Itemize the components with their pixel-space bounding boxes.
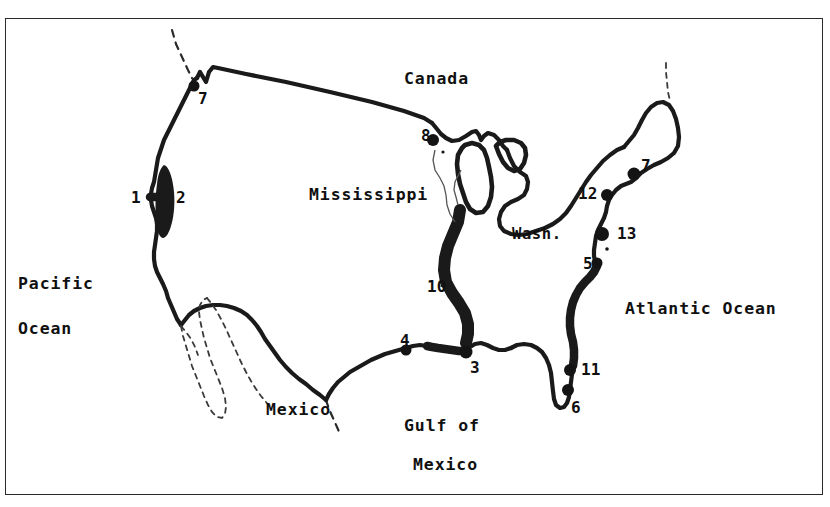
pacific-ocean-label-line1: Pacific: [18, 276, 94, 293]
marker-11: [564, 364, 576, 376]
california-central-valley-blob: [156, 165, 175, 238]
marker-3: [460, 346, 473, 359]
maine-border-dashed: [666, 63, 670, 101]
washington-dc-label: Wash.: [512, 227, 562, 243]
canada-label: Canada: [404, 71, 469, 88]
marker-6: [562, 384, 574, 396]
atlantic-ocean-label: Atlantic Ocean: [625, 301, 777, 318]
site-number-12: 12: [578, 186, 597, 202]
minor-dot-coast: [605, 247, 609, 251]
site-number-7-northwest: 7: [198, 91, 208, 107]
canada-border-dashed-nw: [172, 30, 192, 78]
northeast-maine-border: [624, 102, 679, 178]
site-number-13: 13: [617, 226, 636, 242]
florida-peninsula: [511, 344, 573, 408]
gulf-coast-east: [466, 343, 511, 351]
gulf-of-mexico-label-line1: Gulf of: [404, 418, 480, 435]
site-number-11: 11: [581, 362, 600, 378]
map-figure: Pacific Ocean Atlantic Ocean Canada Miss…: [0, 0, 830, 507]
site-number-6: 6: [571, 400, 581, 416]
site-number-5: 5: [583, 256, 593, 272]
site-number-2: 2: [176, 190, 186, 206]
northern-border: [197, 67, 432, 123]
atlantic-coast-upper: [594, 178, 636, 266]
gulf-coast-texas: [326, 345, 427, 400]
marker-5: [592, 258, 603, 269]
site-number-4: 4: [400, 333, 410, 349]
site-number-3: 3: [470, 360, 480, 376]
mexico-label: Mexico: [266, 402, 331, 419]
atlantic-coast-carolinas: [570, 266, 597, 366]
mississippi-label: Mississippi: [309, 187, 428, 204]
missouri-river-thin: [433, 150, 455, 222]
site-number-1: 1: [131, 190, 141, 206]
minor-dot-lake: [441, 150, 444, 153]
site-number-7-northeast: 7: [641, 158, 651, 174]
marker-7-ne: [628, 168, 641, 181]
mississippi-river: [444, 210, 468, 343]
site-number-8: 8: [421, 128, 431, 144]
baja-gulf-inner-line: [207, 298, 270, 407]
gulf-of-mexico-label-line2: Mexico: [413, 457, 478, 474]
marker-13: [595, 227, 609, 241]
lake-michigan-outline: [457, 143, 492, 213]
site-number-10: 10: [427, 279, 446, 295]
pacific-ocean-label-line2: Ocean: [18, 321, 72, 338]
marker-12: [601, 189, 613, 201]
